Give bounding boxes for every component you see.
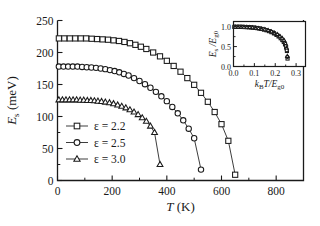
x-tick-label: 400 — [158, 185, 176, 197]
inset-x-tick-label: 0.1 — [249, 69, 259, 78]
figure-container: 0200400600800050100150200250T (K)Es (meV… — [0, 0, 320, 226]
data-point-square — [100, 37, 105, 42]
data-point-square — [62, 36, 67, 41]
legend-label: ε = 2.5 — [94, 137, 126, 149]
y-tick-label: 200 — [36, 47, 54, 59]
legend-label: ε = 3.0 — [94, 153, 126, 165]
data-point-square — [78, 36, 83, 41]
scientific-line-chart: 0200400600800050100150200250T (K)Es (meV… — [0, 0, 320, 226]
data-point-square — [67, 36, 72, 41]
x-tick-label: 800 — [268, 185, 286, 197]
x-tick-label: 0 — [55, 185, 61, 197]
data-point-square — [157, 54, 162, 59]
legend-marker-square — [74, 123, 80, 129]
data-point-square — [89, 36, 94, 41]
data-point-circle — [198, 167, 203, 172]
inset-y-tick-label: 1.0 — [221, 23, 231, 32]
data-point-circle — [137, 78, 142, 83]
data-point-square — [198, 90, 203, 95]
inset-x-tick-label: 0.3 — [291, 69, 301, 78]
data-point-square — [133, 42, 138, 47]
chart-legend: ε = 2.2ε = 2.5ε = 3.0 — [66, 120, 126, 165]
data-point-circle — [153, 89, 158, 94]
data-point-circle — [164, 98, 169, 103]
y-tick-label: 50 — [42, 143, 54, 155]
data-point-square — [171, 63, 176, 68]
data-point-square — [116, 38, 121, 43]
data-point-circle — [131, 75, 136, 80]
data-point-circle — [148, 85, 153, 90]
data-point-circle — [170, 104, 175, 109]
data-point-circle — [142, 81, 147, 86]
inset-y-tick-label: 0.0 — [221, 63, 231, 72]
data-point-circle — [186, 126, 191, 131]
data-point-square — [212, 109, 217, 114]
data-point-square — [84, 36, 89, 41]
data-point-square — [127, 41, 132, 46]
data-point-square — [105, 37, 110, 42]
y-tick-label: 150 — [36, 79, 54, 91]
data-point-square — [164, 58, 169, 63]
y-tick-label: 0 — [48, 175, 54, 187]
y-tick-label: 250 — [36, 15, 54, 27]
data-point-square — [205, 99, 210, 104]
data-point-square — [138, 44, 143, 49]
legend-marker-circle — [74, 140, 80, 146]
data-point-square — [151, 50, 156, 55]
data-point-circle — [191, 136, 196, 141]
legend-label: ε = 2.2 — [94, 120, 126, 132]
y-tick-label: 100 — [36, 111, 54, 123]
data-point-square — [122, 39, 127, 44]
x-tick-label: 200 — [104, 185, 122, 197]
x-axis-label: T (K) — [166, 199, 195, 214]
data-point-square — [233, 172, 238, 177]
x-tick-label: 600 — [213, 185, 231, 197]
data-point-square — [56, 36, 61, 41]
data-point-circle — [181, 118, 186, 123]
data-point-square — [95, 36, 100, 41]
data-point-square — [111, 38, 116, 43]
data-point-square — [178, 69, 183, 74]
data-point-circle — [159, 94, 164, 99]
data-point-square — [185, 76, 190, 81]
data-point-square — [144, 46, 149, 51]
data-point-circle — [175, 111, 180, 116]
inset-y-tick-label: 0.5 — [221, 43, 231, 52]
data-point-circle — [126, 73, 131, 78]
inset-x-tick-label: 0.2 — [270, 69, 280, 78]
data-point-square — [226, 138, 231, 143]
data-point-square — [192, 82, 197, 87]
y-axis-label: Es (meV) — [4, 76, 21, 126]
data-point-square — [73, 36, 78, 41]
data-point-square — [219, 122, 224, 127]
